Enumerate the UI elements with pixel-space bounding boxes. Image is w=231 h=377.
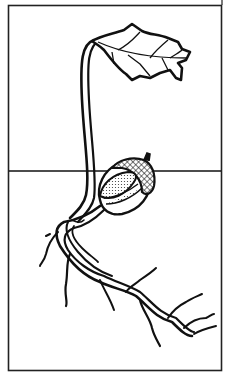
leaf [92, 24, 190, 80]
roots [40, 206, 216, 346]
illustration [0, 0, 231, 377]
stem [70, 40, 100, 222]
acorn [99, 153, 155, 214]
